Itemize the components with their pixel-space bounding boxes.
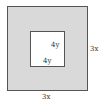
outer-side-label-right: 3x <box>90 46 98 53</box>
inner-side-label-right: 4y <box>51 42 59 49</box>
inner-side-label-bottom: 4y <box>43 58 51 65</box>
outer-side-label-bottom: 3x <box>42 94 50 101</box>
